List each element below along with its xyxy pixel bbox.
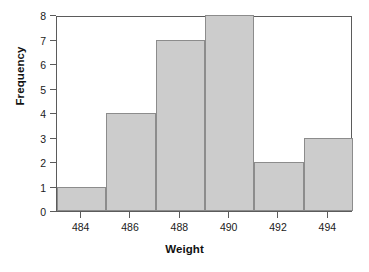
x-axis-tick-label: 492 — [258, 222, 298, 233]
y-axis-tick-label: 7 — [28, 36, 46, 46]
y-axis-tick — [50, 187, 56, 188]
y-axis-tick — [50, 40, 56, 41]
y-axis-tick-label: 2 — [28, 158, 46, 168]
histogram-bar — [205, 15, 254, 211]
x-axis-tick-label: 494 — [307, 222, 347, 233]
histogram-bar — [156, 40, 205, 212]
x-axis-tick — [228, 212, 229, 218]
histogram-bar — [254, 162, 303, 211]
y-axis-tick-label: 6 — [28, 60, 46, 70]
x-axis-tick — [277, 212, 278, 218]
y-axis-tick — [50, 211, 56, 212]
histogram-bar — [106, 113, 155, 211]
x-axis-tick — [327, 212, 328, 218]
plot-area — [56, 16, 352, 212]
y-axis-tick-label: 0 — [28, 207, 46, 217]
y-axis-tick — [50, 113, 56, 114]
y-axis-tick-label: 4 — [28, 109, 46, 119]
x-axis-tick — [179, 212, 180, 218]
y-axis-tick-label: 1 — [28, 183, 46, 193]
y-axis-title: Frequency — [12, 26, 28, 126]
x-axis-tick-label: 484 — [61, 222, 101, 233]
y-axis-tick — [50, 138, 56, 139]
y-axis-tick — [50, 89, 56, 90]
x-axis-tick — [80, 212, 81, 218]
histogram-bar — [304, 138, 353, 212]
y-axis-tick — [50, 15, 56, 16]
histogram-chart: Frequency Weight 01234567848448648849049… — [0, 0, 369, 272]
histogram-bar — [57, 187, 106, 212]
x-axis-tick-label: 488 — [159, 222, 199, 233]
y-axis-tick-label: 5 — [28, 85, 46, 95]
x-axis-tick-label: 490 — [209, 222, 249, 233]
x-axis-tick-label: 486 — [110, 222, 150, 233]
bars-layer — [57, 17, 351, 211]
y-axis-tick-label: 3 — [28, 134, 46, 144]
x-axis-title: Weight — [0, 243, 369, 255]
y-axis-tick — [50, 162, 56, 163]
x-axis-tick — [129, 212, 130, 218]
y-axis-tick — [50, 64, 56, 65]
y-axis-tick-label: 8 — [28, 11, 46, 21]
